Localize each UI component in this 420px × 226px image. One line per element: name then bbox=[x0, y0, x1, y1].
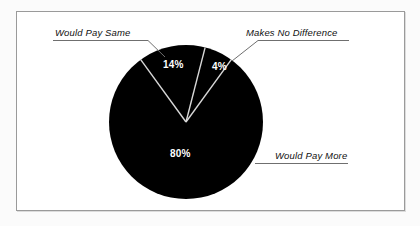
slice-value-would-pay-same: 14% bbox=[163, 59, 184, 70]
figure-root: Would Pay Same Makes No Difference Would… bbox=[0, 0, 420, 226]
leader-line-makes-no-difference bbox=[232, 41, 349, 62]
slice-value-makes-no-difference: 4% bbox=[212, 61, 227, 72]
callout-label-makes-no-difference: Makes No Difference bbox=[246, 27, 338, 38]
callout-label-would-pay-more: Would Pay More bbox=[275, 150, 347, 161]
leader-line-would-pay-same bbox=[53, 41, 165, 58]
slice-value-would-pay-more: 80% bbox=[170, 148, 191, 159]
callout-label-would-pay-same: Would Pay Same bbox=[55, 27, 131, 38]
